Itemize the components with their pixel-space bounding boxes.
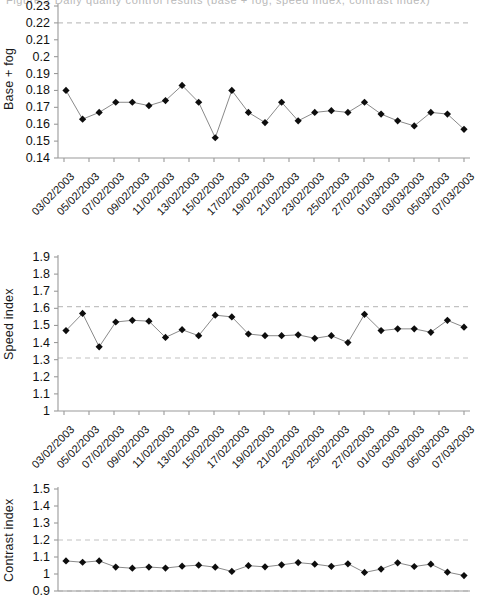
plot-area-contrast-index: 0.911.11.21.31.41.5Contrast index <box>0 472 484 609</box>
data-point-marker <box>162 564 169 571</box>
plot-area-base-fog: 0.140.150.160.170.180.190.20.210.220.230… <box>0 0 484 224</box>
data-point-marker <box>261 332 268 339</box>
series-line <box>66 313 464 346</box>
data-point-marker <box>394 325 401 332</box>
data-point-marker <box>444 317 451 324</box>
data-point-marker <box>328 563 335 570</box>
chart-panel-base-fog: 0.140.150.160.170.180.190.20.210.220.230… <box>0 0 484 224</box>
data-point-marker <box>394 559 401 566</box>
data-point-marker <box>427 561 434 568</box>
data-point-marker <box>79 559 86 566</box>
data-point-marker <box>261 563 268 570</box>
data-point-marker <box>377 565 384 572</box>
data-point-marker <box>460 572 467 579</box>
data-point-marker <box>295 331 302 338</box>
data-point-marker <box>295 559 302 566</box>
data-point-marker <box>361 99 368 106</box>
data-point-marker <box>377 110 384 117</box>
data-point-marker <box>195 562 202 569</box>
data-point-marker <box>112 318 119 325</box>
data-point-marker <box>278 561 285 568</box>
data-point-marker <box>62 557 69 564</box>
data-point-marker <box>311 109 318 116</box>
data-point-marker <box>112 99 119 106</box>
data-point-marker <box>278 332 285 339</box>
data-point-marker <box>96 343 103 350</box>
y-axis-title: Base + fog <box>2 48 16 110</box>
data-point-marker <box>145 102 152 109</box>
series-line <box>66 85 464 137</box>
data-point-marker <box>344 339 351 346</box>
data-point-marker <box>328 107 335 114</box>
data-point-marker <box>411 325 418 332</box>
data-point-marker <box>212 564 219 571</box>
y-axis-title: Contrast index <box>2 499 16 582</box>
data-point-marker <box>79 116 86 123</box>
data-point-marker <box>328 332 335 339</box>
chart-panel-contrast-index: 0.911.11.21.31.41.5Contrast index <box>0 472 484 609</box>
data-point-marker <box>344 560 351 567</box>
data-point-marker <box>228 568 235 575</box>
data-point-marker <box>129 317 136 324</box>
data-point-marker <box>96 557 103 564</box>
data-point-marker <box>212 134 219 141</box>
data-point-marker <box>145 563 152 570</box>
data-point-marker <box>62 87 69 94</box>
data-point-marker <box>361 569 368 576</box>
data-point-marker <box>129 565 136 572</box>
data-point-marker <box>178 563 185 570</box>
plot-area-speed-index: 11.11.21.31.41.51.61.71.81.903/02/200305… <box>0 230 484 462</box>
data-point-marker <box>245 562 252 569</box>
chart-panel-speed-index: 11.11.21.31.41.51.61.71.81.903/02/200305… <box>0 230 484 462</box>
data-point-marker <box>96 109 103 116</box>
data-point-marker <box>178 326 185 333</box>
data-point-marker <box>411 563 418 570</box>
chart-svg <box>0 230 484 462</box>
chart-svg <box>0 472 484 609</box>
data-point-marker <box>444 569 451 576</box>
data-point-marker <box>311 561 318 568</box>
data-point-marker <box>344 109 351 116</box>
chart-svg <box>0 0 484 224</box>
y-axis-title: Speed index <box>2 288 16 360</box>
data-point-marker <box>311 335 318 342</box>
data-point-marker <box>427 329 434 336</box>
figure-root: Figure 2 Daily quality control results (… <box>0 0 484 609</box>
data-point-marker <box>129 99 136 106</box>
data-point-marker <box>394 117 401 124</box>
data-point-marker <box>460 324 467 331</box>
data-point-marker <box>112 563 119 570</box>
